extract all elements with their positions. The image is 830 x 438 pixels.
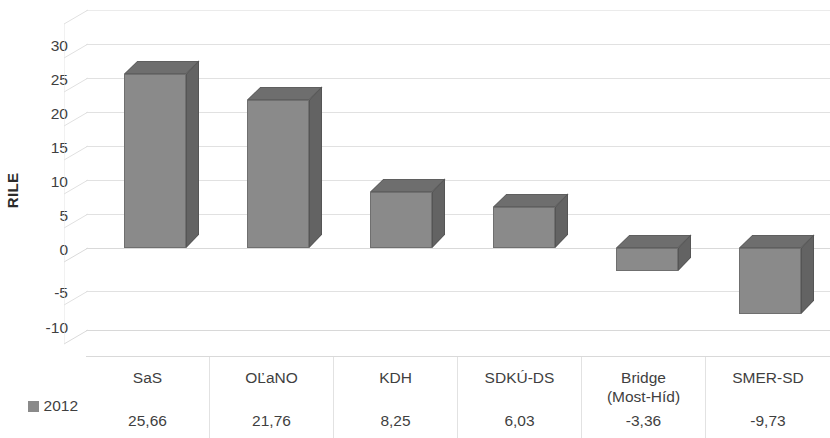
bar-front-face bbox=[739, 248, 801, 314]
table-column: OĽaNO 21,76 bbox=[210, 357, 334, 438]
bar-kdh[interactable] bbox=[370, 179, 432, 248]
bar-side-face bbox=[432, 179, 445, 248]
zero-gridline bbox=[86, 248, 830, 249]
bar-chart: RILE 30 25 20 15 10 5 0 -5 -10 bbox=[0, 0, 830, 438]
table-value-cell: 8,25 bbox=[334, 411, 457, 430]
gridline bbox=[86, 10, 830, 11]
bar-olano[interactable] bbox=[247, 87, 309, 248]
table-value-cell: -9,73 bbox=[706, 411, 830, 430]
bar-bridge-most-hid[interactable] bbox=[616, 235, 678, 271]
table-category-label: SDKÚ-DS bbox=[458, 368, 581, 387]
legend-series-label: 2012 bbox=[44, 398, 78, 414]
table-category-label: SaS bbox=[86, 368, 209, 387]
table-category-label: KDH bbox=[334, 368, 457, 387]
y-tick-label: 0 bbox=[22, 242, 68, 258]
gridline bbox=[86, 44, 830, 45]
table-column: SDKÚ-DS 6,03 bbox=[458, 357, 582, 438]
table-column: KDH 8,25 bbox=[334, 357, 458, 438]
y-tick-label: 10 bbox=[22, 174, 68, 190]
table-category-label: Bridge (Most-Híd) bbox=[582, 368, 705, 406]
plot-area bbox=[86, 0, 830, 356]
bar-side-face bbox=[309, 87, 322, 248]
legend-swatch-icon bbox=[28, 401, 39, 412]
table-value-cell: 6,03 bbox=[458, 411, 581, 430]
y-tick-label: 20 bbox=[22, 106, 68, 122]
bar-side-face bbox=[186, 61, 199, 248]
floor-line bbox=[86, 330, 830, 331]
table-column: SMER-SD -9,73 bbox=[706, 357, 830, 438]
table-column: Bridge (Most-Híd) -3,36 bbox=[582, 357, 706, 438]
bar-side-face bbox=[801, 235, 814, 314]
y-axis-tick-labels: 30 25 20 15 10 5 0 -5 -10 bbox=[22, 0, 68, 360]
table-value-cell: 25,66 bbox=[86, 411, 209, 430]
bar-front-face bbox=[616, 248, 678, 271]
table-category-label: OĽaNO bbox=[210, 368, 333, 387]
legend: 2012 bbox=[0, 392, 86, 420]
y-tick-label: 25 bbox=[22, 72, 68, 88]
y-tick-label: -5 bbox=[22, 285, 68, 301]
y-tick-label: 30 bbox=[22, 38, 68, 54]
bar-front-face bbox=[493, 207, 555, 248]
table-category-label: SMER-SD bbox=[706, 368, 830, 387]
table-column: SaS 25,66 bbox=[86, 357, 210, 438]
data-table: SaS 25,66 OĽaNO 21,76 KDH 8,25 SDKÚ-DS 6… bbox=[86, 356, 830, 438]
y-tick-label: 5 bbox=[22, 208, 68, 224]
bar-sdku-ds[interactable] bbox=[493, 194, 555, 248]
gridline bbox=[86, 291, 830, 292]
table-value-cell: -3,36 bbox=[582, 411, 705, 430]
y-axis-title: RILE bbox=[4, 161, 21, 221]
bar-front-face bbox=[124, 74, 186, 248]
bar-smer-sd[interactable] bbox=[739, 235, 801, 314]
bar-front-face bbox=[247, 100, 309, 248]
y-tick-label: -10 bbox=[22, 320, 68, 336]
bar-front-face bbox=[370, 192, 432, 248]
bar-sas[interactable] bbox=[124, 61, 186, 248]
table-value-cell: 21,76 bbox=[210, 411, 333, 430]
y-tick-label: 15 bbox=[22, 140, 68, 156]
